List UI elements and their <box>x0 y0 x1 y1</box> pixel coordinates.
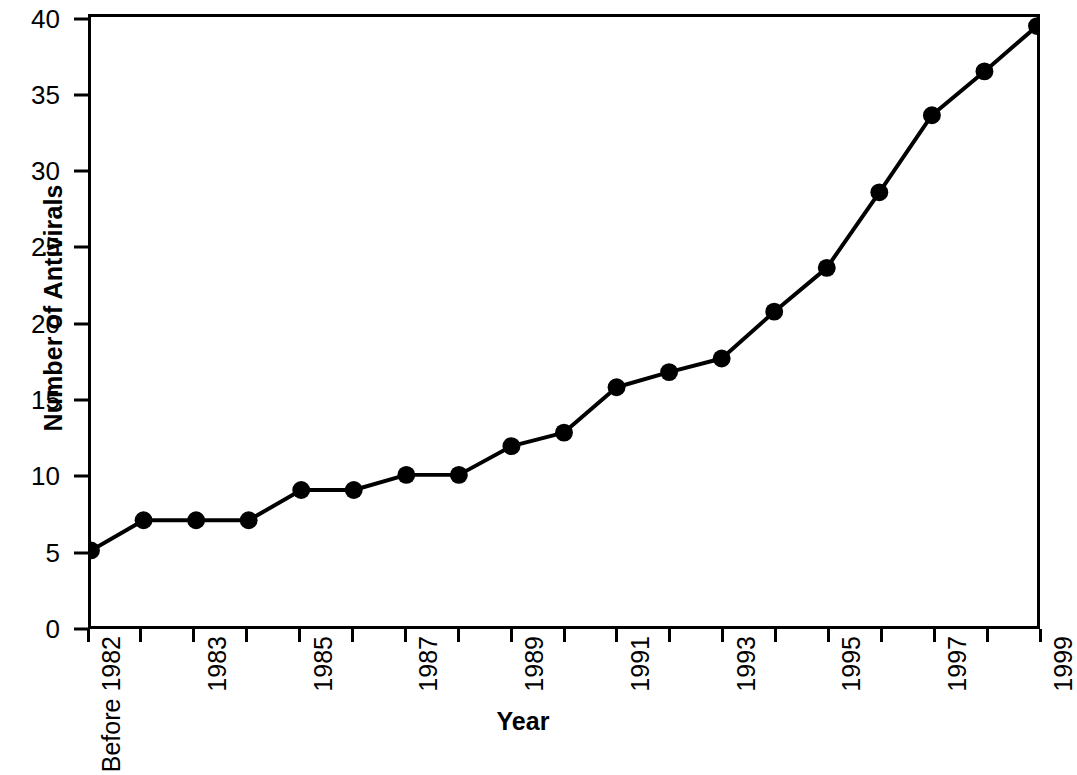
data-point <box>292 481 310 499</box>
x-tick-label: 1983 <box>204 636 230 766</box>
y-tick-mark <box>74 170 88 173</box>
y-tick-label: 15 <box>14 387 60 413</box>
y-tick-mark <box>74 17 88 20</box>
x-tick-label: 1989 <box>521 636 547 766</box>
y-tick-label: 0 <box>14 616 60 642</box>
y-tick-label: 40 <box>14 6 60 32</box>
data-point <box>135 511 153 529</box>
data-point-markers <box>91 17 1037 559</box>
plot-area <box>88 14 1040 629</box>
data-point <box>345 481 363 499</box>
data-point <box>870 183 888 201</box>
data-line-series <box>91 17 1037 626</box>
data-point <box>187 511 205 529</box>
y-tick-mark <box>74 246 88 249</box>
y-tick-label: 10 <box>14 463 60 489</box>
x-tick-label: Before 1982 <box>98 636 124 775</box>
x-tick-label: 1999 <box>1050 636 1076 766</box>
data-point <box>713 350 731 368</box>
y-tick-mark <box>74 322 88 325</box>
x-tick-label: 1987 <box>415 636 441 766</box>
line-path <box>91 26 1037 550</box>
data-point <box>818 259 836 277</box>
x-axis-tick-labels: Before 198219831985198719891991199319951… <box>88 636 1040 760</box>
data-point <box>397 466 415 484</box>
y-tick-label: 25 <box>14 234 60 260</box>
data-point <box>450 466 468 484</box>
data-point <box>765 303 783 321</box>
y-tick-mark <box>74 551 88 554</box>
data-point <box>923 106 941 124</box>
y-tick-label: 30 <box>14 158 60 184</box>
y-tick-label: 20 <box>14 311 60 337</box>
data-point <box>555 424 573 442</box>
y-tick-label: 35 <box>14 82 60 108</box>
y-tick-mark <box>74 93 88 96</box>
data-point <box>660 363 678 381</box>
x-tick-label: 1993 <box>733 636 759 766</box>
x-tick-label: 1985 <box>310 636 336 766</box>
y-tick-mark <box>74 399 88 402</box>
data-point <box>240 511 258 529</box>
x-tick-label: 1997 <box>944 636 970 766</box>
y-tick-label: 5 <box>14 540 60 566</box>
data-point <box>503 437 521 455</box>
x-axis-title: Year <box>0 707 1046 736</box>
y-tick-mark <box>74 475 88 478</box>
x-tick-label: 1991 <box>627 636 653 766</box>
data-point <box>976 62 994 80</box>
data-point <box>608 378 626 396</box>
x-tick-label: 1995 <box>838 636 864 766</box>
y-axis-tick-labels: 0510152025303540 <box>8 0 60 760</box>
